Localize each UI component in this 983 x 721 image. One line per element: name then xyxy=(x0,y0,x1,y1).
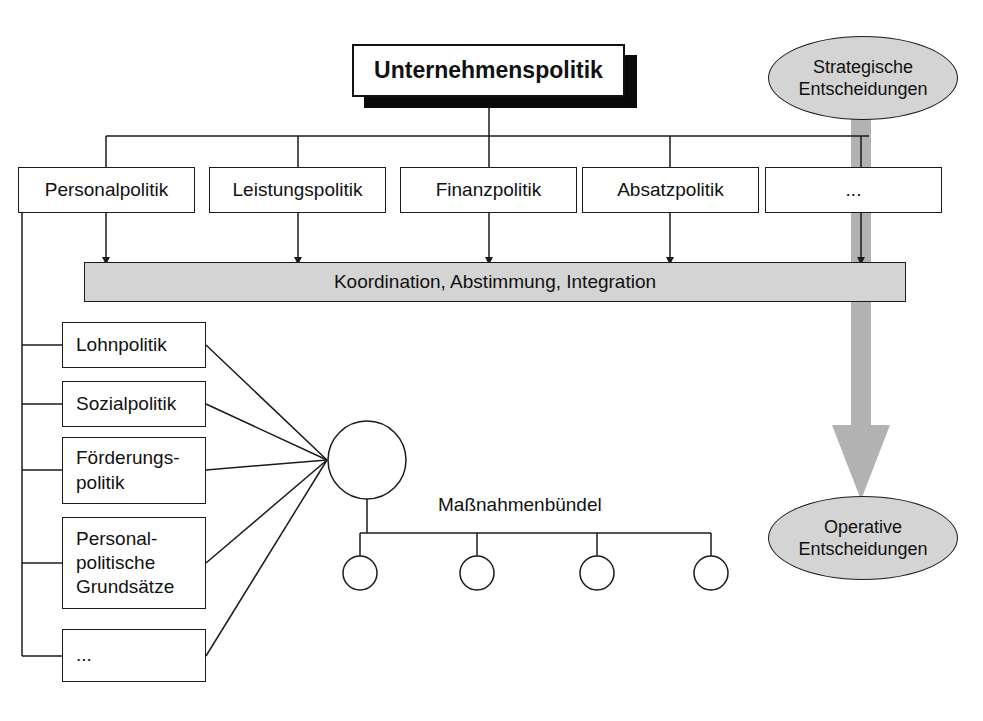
policy-label: Personalpolitik xyxy=(45,178,169,202)
massnahmenbuendel-text: Maßnahmenbündel xyxy=(438,494,602,515)
policy-label: Finanzpolitik xyxy=(436,178,542,202)
policy-to-coordination-arrows xyxy=(106,213,861,258)
title-to-bus-connector xyxy=(106,108,869,167)
subpolicy-to-bundle-lines xyxy=(206,345,327,656)
coordination-label: Koordination, Abstimmung, Integration xyxy=(334,271,656,293)
strategic-decisions-ellipse[interactable]: Strategische Entscheidungen xyxy=(768,36,958,120)
operative-decisions-label: Operative Entscheidungen xyxy=(798,516,927,561)
subpolicy-box-foerderungspolitik[interactable]: Förderungs- politik xyxy=(62,437,206,504)
policy-label: Leistungspolitik xyxy=(233,178,363,202)
operative-decisions-ellipse[interactable]: Operative Entscheidungen xyxy=(768,496,958,580)
subpolicy-label: ... xyxy=(76,643,92,667)
coordination-bar[interactable]: Koordination, Abstimmung, Integration xyxy=(84,262,906,302)
subpolicy-label: Personal- politische Grundsätze xyxy=(76,527,174,600)
policy-box-absatzpolitik[interactable]: Absatzpolitik xyxy=(582,167,759,213)
diagram-canvas: Unternehmenspolitik Personalpolitik Leis… xyxy=(0,0,983,721)
policy-label: ... xyxy=(846,178,862,202)
personalpolitik-spine xyxy=(22,213,62,656)
strategic-decisions-label: Strategische Entscheidungen xyxy=(798,56,927,101)
policy-label: Absatzpolitik xyxy=(617,178,724,202)
subpolicy-label: Förderungs- politik xyxy=(76,446,180,495)
policy-box-personalpolitik[interactable]: Personalpolitik xyxy=(18,167,195,213)
policy-box-leistungspolitik[interactable]: Leistungspolitik xyxy=(209,167,386,213)
massnahmenbuendel-label: Maßnahmenbündel xyxy=(438,494,602,516)
subpolicy-label: Sozialpolitik xyxy=(76,392,176,416)
bundle-hub-circle xyxy=(328,421,406,499)
subpolicy-box-lohnpolitik[interactable]: Lohnpolitik xyxy=(62,322,206,368)
subpolicy-label: Lohnpolitik xyxy=(76,333,167,357)
measure-circles xyxy=(343,556,728,590)
policy-box-more[interactable]: ... xyxy=(765,167,942,213)
subpolicy-box-more[interactable]: ... xyxy=(62,629,206,682)
subpolicy-box-personalpolitische-grundsaetze[interactable]: Personal- politische Grundsätze xyxy=(62,517,206,609)
subpolicy-box-sozialpolitik[interactable]: Sozialpolitik xyxy=(62,381,206,427)
policy-box-finanzpolitik[interactable]: Finanzpolitik xyxy=(400,167,577,213)
title-label: Unternehmenspolitik xyxy=(374,56,603,85)
title-box[interactable]: Unternehmenspolitik xyxy=(352,44,625,97)
